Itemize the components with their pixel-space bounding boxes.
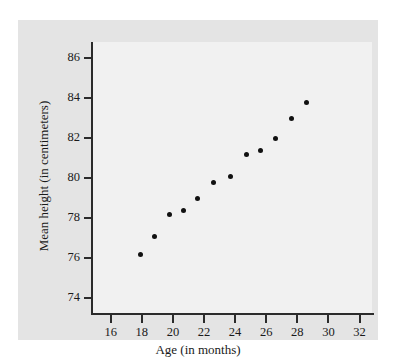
chart-figure: 74767880828486 161820222426283032 Age (i…: [18, 20, 378, 340]
scatter-point: [258, 148, 263, 153]
x-tick-label: 22: [189, 325, 219, 340]
x-tick: [265, 315, 267, 323]
scatter-point: [273, 136, 278, 141]
x-axis-line: [92, 313, 374, 315]
scatter-point: [228, 174, 233, 179]
x-tick: [296, 315, 298, 323]
x-tick-label: 24: [220, 325, 250, 340]
scatter-point: [244, 152, 249, 157]
y-tick: [84, 257, 92, 259]
scatter-point: [152, 234, 157, 239]
x-tick-label: 20: [158, 325, 188, 340]
scatter-point: [211, 180, 216, 185]
x-tick: [234, 315, 236, 323]
x-axis-label: Age (in months): [18, 342, 378, 358]
x-tick-label: 16: [96, 325, 126, 340]
x-tick: [110, 315, 112, 323]
y-tick: [84, 57, 92, 59]
x-tick-label: 28: [282, 325, 312, 340]
y-tick: [84, 297, 92, 299]
scatter-point: [304, 100, 309, 105]
y-axis-label: Mean height (in centimeters): [36, 56, 52, 296]
x-tick-label: 30: [313, 325, 343, 340]
y-tick: [84, 97, 92, 99]
scatter-point: [289, 116, 294, 121]
x-tick: [327, 315, 329, 323]
x-tick: [141, 315, 143, 323]
y-tick: [84, 137, 92, 139]
x-tick: [359, 315, 361, 323]
x-tick-label: 32: [345, 325, 375, 340]
scatter-point: [195, 196, 200, 201]
scatter-point: [181, 208, 186, 213]
scatter-point: [138, 252, 143, 257]
scatter-point: [167, 212, 172, 217]
y-tick: [84, 217, 92, 219]
x-tick-label: 18: [127, 325, 157, 340]
x-tick: [203, 315, 205, 323]
y-tick: [84, 177, 92, 179]
x-tick-label: 26: [251, 325, 281, 340]
x-tick: [172, 315, 174, 323]
